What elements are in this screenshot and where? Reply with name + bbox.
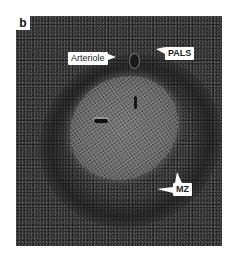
mz-label: MZ (173, 183, 192, 196)
micrograph-panel: b Arteriole PALS MZ (16, 16, 222, 246)
pals-label: PALS (165, 47, 194, 60)
arteriole-label: Arteriole (68, 52, 108, 65)
vessel-slit (134, 96, 137, 109)
panel-label: b (16, 16, 30, 30)
arteriole-structure (129, 53, 140, 69)
central-vessel (94, 119, 108, 123)
